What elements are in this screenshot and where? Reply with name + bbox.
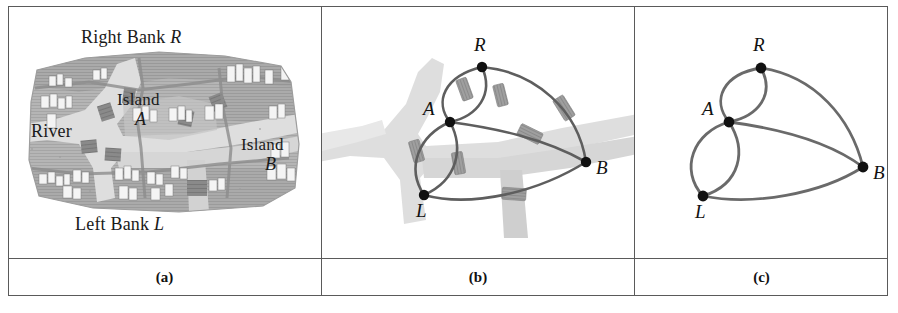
- node-R: [756, 63, 767, 74]
- edge-R-B: [761, 68, 863, 167]
- node-B: [581, 157, 591, 167]
- faded-river-background: [322, 58, 634, 238]
- panel-b-graph-over-map: R A L B: [322, 6, 634, 258]
- edge-A-R-1: [721, 68, 761, 122]
- panel-b-label-B: B: [596, 157, 608, 179]
- node-R: [477, 62, 487, 72]
- map-label-a-symbol: A: [135, 109, 146, 130]
- bridge-marker-2: [493, 83, 509, 107]
- map-label-b-symbol: B: [265, 154, 276, 175]
- panel-c-label-B: B: [873, 162, 885, 184]
- konigsberg-figure: Right Bank R Left Bank L River Island A …: [0, 0, 898, 313]
- panel-c-label-A: A: [702, 98, 714, 120]
- map-label-river: River: [31, 121, 72, 142]
- map-label-island-a: Island: [117, 90, 160, 110]
- map-label-island-b: Island: [241, 135, 284, 155]
- caption-c: (c): [635, 258, 888, 296]
- map-label-left-bank: Left Bank L: [75, 214, 164, 235]
- map-label-right-bank: Right Bank R: [81, 27, 181, 48]
- node-A: [445, 117, 455, 127]
- panel-c-label-L: L: [695, 201, 706, 223]
- panel-c-edges: [691, 68, 863, 199]
- node-L: [698, 191, 709, 202]
- caption-row: (a) (b) (c): [8, 258, 888, 296]
- panel-c-graph: R A L B: [635, 6, 887, 258]
- bridge-marker-6: [553, 95, 576, 122]
- panel-b-label-L: L: [416, 200, 427, 222]
- panel-a-map: Right Bank R Left Bank L River Island A …: [9, 6, 321, 258]
- panel-c-label-R: R: [753, 34, 765, 56]
- node-L: [419, 190, 429, 200]
- caption-b: (b): [322, 258, 634, 296]
- node-B: [858, 162, 869, 173]
- panel-b-label-A: A: [423, 98, 435, 120]
- node-A: [724, 117, 735, 128]
- panel-b-label-R: R: [474, 34, 486, 56]
- edge-A-B: [729, 122, 863, 167]
- caption-a: (a): [8, 258, 321, 296]
- bridge-marker-1: [456, 77, 474, 101]
